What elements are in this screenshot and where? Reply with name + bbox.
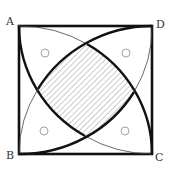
marker-circle-b [40,127,48,135]
vertex-label-a: A [5,15,15,28]
marker-circle-d [122,49,130,57]
marker-circle-c [121,127,129,135]
geometry-diagram: A D B C [0,0,177,172]
vertex-label-b: B [6,149,14,162]
arc-center-b-thin [19,26,87,44]
vertex-label-c: C [155,151,163,164]
vertex-label-d: D [156,18,165,31]
arc-center-d-thin [85,136,152,154]
marker-circle-a [41,49,49,57]
arc-center-a-thin [134,26,152,92]
shaded-region [38,44,134,136]
arc-center-c-thin [19,89,38,154]
